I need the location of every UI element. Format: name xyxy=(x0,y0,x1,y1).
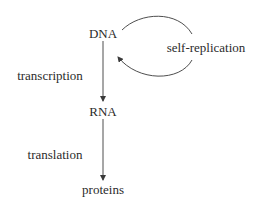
node-proteins: proteins xyxy=(82,183,124,196)
node-rna: RNA xyxy=(89,105,116,118)
self-replication-lower-arc xyxy=(118,57,192,76)
edge-label-translation: translation xyxy=(28,148,83,161)
central-dogma-diagram: DNA RNA proteins transcription translati… xyxy=(0,0,257,209)
self-replication-upper-arc xyxy=(122,16,192,34)
edge-label-self-replication: self-replication xyxy=(167,41,246,54)
diagram-edges xyxy=(0,0,257,209)
node-dna: DNA xyxy=(89,27,117,40)
edge-label-transcription: transcription xyxy=(17,69,83,82)
